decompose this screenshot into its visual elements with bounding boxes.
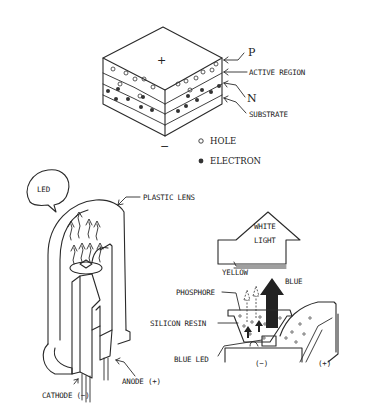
label-active-region: ACTIVE REGION <box>249 68 305 77</box>
hole-legend-icon <box>199 139 203 143</box>
label-n: N <box>247 92 257 105</box>
label-phosphore: PHOSPHORE <box>176 288 216 297</box>
emission-arrows <box>68 212 103 264</box>
electron-markers <box>106 84 221 113</box>
label-silicon-resin: SILICON RESIN <box>150 319 206 328</box>
positive-sign: + <box>157 54 166 67</box>
label-yellow: YELLOW <box>222 268 249 277</box>
label-plastic-lens: PLASTIC LENS <box>143 193 195 202</box>
legend-electron: ELECTRON <box>210 156 262 166</box>
pn-junction-cube: + − P ACTIVE REGION N SUBSTRATE <box>103 27 305 166</box>
label-anode: ANODE (+) <box>122 377 161 386</box>
label-plus: (+) <box>318 359 331 368</box>
yellow-arrow-2 <box>253 286 259 318</box>
label-white: WHITE <box>254 222 276 231</box>
legend-hole: HOLE <box>210 136 236 146</box>
white-led-cross-section: WHITE LIGHT YELLOW BLUE <box>150 212 338 368</box>
label-light: LIGHT <box>254 236 276 245</box>
label-cathode: CATHODE (−) <box>42 391 89 400</box>
bubble-label: LED <box>37 185 51 194</box>
electron-legend-icon <box>199 159 204 164</box>
label-substrate: SUBSTRATE <box>249 110 289 119</box>
negative-sign: − <box>160 140 169 153</box>
label-minus: (−) <box>255 359 268 368</box>
led-diagram: + − P ACTIVE REGION N SUBSTRATE <box>0 0 370 418</box>
blue-arrow <box>260 278 284 328</box>
yellow-arrow-1 <box>244 290 250 322</box>
label-blue-led: BLUE LED <box>174 355 209 364</box>
label-p: P <box>248 46 256 59</box>
blue-led-chip <box>262 336 276 346</box>
led-body: LED <box>27 170 195 402</box>
label-blue: BLUE <box>285 277 303 286</box>
